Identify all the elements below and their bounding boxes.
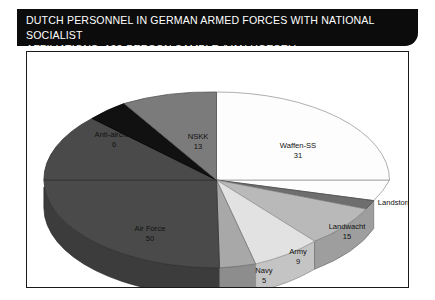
chart-title-bar: DUTCH PERSONNEL IN GERMAN ARMED FORCES W… [17,9,418,46]
chart-panel: Anti-aircraft 6 NSKK 13 Waffen-SS 31 Lan… [26,51,409,288]
pie-chart-svg [27,52,408,287]
slice-waffen-ss-upper [217,92,390,180]
pie-chart-figure: DUTCH PERSONNEL IN GERMAN ARMED FORCES W… [0,0,435,300]
page-title: DUTCH PERSONNEL IN GERMAN ARMED FORCES W… [26,13,409,57]
